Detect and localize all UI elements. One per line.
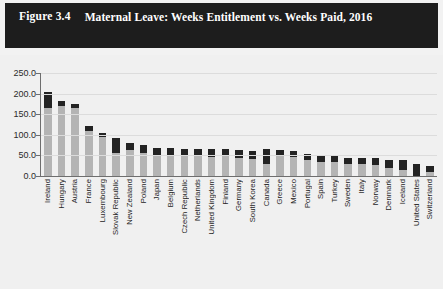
gridline — [41, 155, 437, 156]
bar-segment-weeks-paid — [222, 156, 230, 176]
bar-column — [263, 149, 271, 176]
bar-column — [426, 166, 434, 176]
bar-segment-weeks-paid — [99, 137, 107, 176]
bar-segment-weeks-entitlement — [263, 149, 271, 163]
x-axis-category-label: Poland — [139, 179, 148, 203]
bar-column — [44, 92, 52, 176]
bar-column — [194, 149, 202, 176]
bar-column — [140, 145, 148, 176]
bar-column — [112, 138, 120, 176]
y-axis-tick-label: 100.0 — [13, 130, 36, 140]
bar-column — [181, 149, 189, 176]
y-axis-labels: 0.050.0100.0150.0200.0250.0 — [0, 55, 36, 289]
x-axis-category-label: Switzerland — [425, 179, 434, 219]
y-axis-tick-label: 200.0 — [13, 89, 36, 99]
bar-segment-weeks-paid — [426, 172, 434, 176]
y-axis-tick-mark — [36, 155, 40, 156]
x-axis-category-label: Slovak Republic — [111, 179, 120, 235]
bar-segment-weeks-paid — [153, 155, 161, 176]
bar-segment-weeks-paid — [385, 168, 393, 176]
bar-segment-weeks-paid — [194, 155, 202, 176]
x-axis-category-label: New Zealand — [125, 179, 134, 225]
bar-segment-weeks-paid — [331, 162, 339, 176]
y-axis-tick-label: 0.0 — [23, 171, 36, 181]
bar-segment-weeks-entitlement — [71, 104, 79, 109]
x-axis-category-label: France — [84, 179, 93, 203]
bar-segment-weeks-entitlement — [85, 126, 93, 131]
bar-segment-weeks-paid — [304, 160, 312, 176]
bar-segment-weeks-entitlement — [344, 158, 352, 164]
bar-segment-weeks-entitlement — [58, 101, 66, 106]
x-axis-category-label: Denmark — [384, 179, 393, 211]
x-axis-category-label: Italy — [357, 179, 366, 193]
y-axis-tick-label: 50.0 — [18, 150, 36, 160]
bar-column — [126, 143, 134, 176]
bar-segment-weeks-paid — [126, 150, 134, 176]
bar-segment-weeks-paid — [85, 131, 93, 176]
bar-segment-weeks-paid — [317, 162, 325, 176]
bar-segment-weeks-entitlement — [126, 143, 134, 150]
figure-number-label: Figure 3.4 — [19, 10, 85, 22]
bar-segment-weeks-entitlement — [235, 150, 243, 157]
x-axis-category-label: Finland — [221, 179, 230, 205]
x-axis-category-label: Belgium — [166, 179, 175, 207]
bar-segment-weeks-entitlement — [112, 138, 120, 152]
bar-column — [304, 154, 312, 176]
y-axis-tick-label: 150.0 — [13, 109, 36, 119]
bar-column — [153, 148, 161, 176]
figure-title-bar: Figure 3.4 Maternal Leave: Weeks Entitle… — [5, 3, 438, 48]
bar-segment-weeks-paid — [344, 164, 352, 176]
bar-segment-weeks-paid — [358, 164, 366, 176]
bar-segment-weeks-paid — [71, 108, 79, 176]
bar-segment-weeks-entitlement — [358, 158, 366, 164]
bar-column — [344, 158, 352, 176]
bars-group — [41, 73, 437, 176]
title-row: Figure 3.4 Maternal Leave: Weeks Entitle… — [19, 10, 428, 24]
x-axis-category-label: Canada — [262, 179, 271, 206]
bar-segment-weeks-entitlement — [153, 148, 161, 155]
y-axis-tick-mark — [36, 135, 40, 136]
gridline — [41, 94, 437, 95]
gridline — [41, 73, 437, 74]
gridline — [41, 114, 437, 115]
x-axis-category-label: Mexico — [289, 179, 298, 204]
y-axis-tick-mark — [36, 176, 40, 177]
bar-column — [358, 158, 366, 176]
bar-column — [208, 149, 216, 176]
bar-column — [331, 156, 339, 176]
x-axis-category-label: Turkey — [330, 179, 339, 203]
bar-segment-weeks-entitlement — [331, 156, 339, 162]
bar-segment-weeks-entitlement — [194, 149, 202, 154]
bar-segment-weeks-paid — [276, 155, 284, 176]
x-axis-category-label: Norway — [371, 179, 380, 205]
x-axis-category-label: Germany — [234, 179, 243, 211]
plot-area: 0.050.0100.0150.0200.0250.0 IrelandHunga… — [0, 55, 443, 289]
bar-segment-weeks-entitlement — [426, 166, 434, 172]
x-axis-category-label: Portugal — [303, 179, 312, 208]
x-axis-labels: IrelandHungaryAustriaFranceLuxembourgSlo… — [41, 179, 437, 287]
x-axis-category-label: Luxembourg — [98, 179, 107, 222]
bar-column — [85, 126, 93, 176]
bar-column — [276, 150, 284, 176]
bar-segment-weeks-paid — [58, 106, 66, 176]
bar-segment-weeks-entitlement — [140, 145, 148, 152]
bar-segment-weeks-paid — [263, 164, 271, 176]
bar-segment-weeks-paid — [249, 159, 257, 176]
bar-column — [399, 160, 407, 176]
bar-column — [372, 158, 380, 176]
chart-container: 0.050.0100.0150.0200.0250.0 IrelandHunga… — [0, 55, 443, 289]
bar-segment-weeks-paid — [208, 157, 216, 176]
bar-column — [235, 150, 243, 176]
bar-column — [413, 164, 421, 176]
bar-segment-weeks-paid — [399, 170, 407, 176]
bar-column — [222, 149, 230, 176]
bar-column — [385, 160, 393, 176]
bar-segment-weeks-paid — [290, 157, 298, 176]
bar-column — [99, 133, 107, 176]
x-axis-category-label: Netherlands — [193, 179, 202, 221]
x-axis-category-label: Greece — [275, 179, 284, 205]
gridline — [41, 135, 437, 136]
x-axis-category-label: Iceland — [398, 179, 407, 204]
y-axis-tick-label: 250.0 — [13, 68, 36, 78]
bar-segment-weeks-paid — [167, 156, 175, 176]
